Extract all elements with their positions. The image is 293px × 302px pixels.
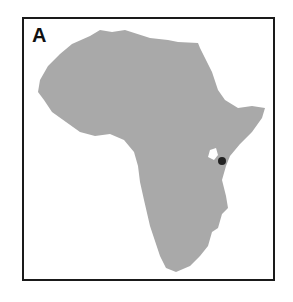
africa-landmass — [38, 30, 265, 272]
africa-map — [0, 0, 293, 302]
location-marker — [218, 157, 226, 165]
